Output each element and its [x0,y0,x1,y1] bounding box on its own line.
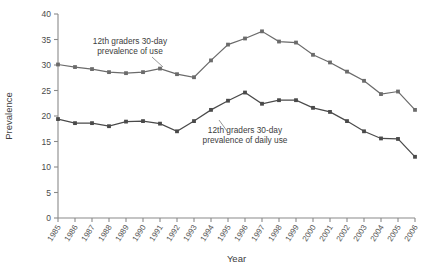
prevalence-line-chart: 0510152025303540198519861987198819891990… [0,0,423,266]
x-tick-label: 2001 [318,223,335,243]
data-point [73,65,77,69]
x-tick-label: 1989 [114,223,131,243]
x-tick-label: 1996 [233,223,250,243]
data-point [277,40,281,44]
annotation-label-line2: prevalence of use [97,46,163,56]
y-tick-label: 25 [42,86,52,96]
data-point [209,108,213,112]
x-tick-label: 2006 [403,223,420,243]
data-point [311,106,315,110]
data-point [243,37,247,41]
data-point [141,70,145,74]
data-point [413,108,417,112]
data-point [362,79,366,83]
data-point [328,110,332,114]
x-tick-label: 1994 [199,223,216,243]
x-tick-label: 1995 [216,223,233,243]
data-point [328,61,332,65]
data-point [362,129,366,133]
data-point [175,129,179,133]
data-point [294,98,298,102]
data-point [345,70,349,74]
data-point [226,43,230,47]
x-tick-label: 2003 [352,223,369,243]
data-point [90,67,94,71]
data-point [209,59,213,63]
annotation-label-line2: prevalence of daily use [203,135,288,145]
data-point [124,120,128,124]
y-tick-label: 30 [42,60,52,70]
x-tick-label: 1998 [267,223,284,243]
data-point [175,72,179,76]
x-tick-label: 1986 [63,223,80,243]
data-point [192,75,196,79]
x-tick-label: 1990 [131,223,148,243]
data-point [56,117,60,121]
data-point [141,119,145,123]
data-point [73,121,77,125]
data-point [226,99,230,103]
data-point [260,29,264,33]
y-tick-label: 10 [42,162,52,172]
data-point [56,63,60,67]
x-tick-label: 1985 [46,223,63,243]
x-tick-label: 2005 [386,223,403,243]
x-tick-label: 2004 [369,223,386,243]
data-point [277,98,281,102]
data-point [243,91,247,95]
data-point [158,122,162,126]
y-tick-label: 35 [42,35,52,45]
y-tick-label: 0 [46,213,51,223]
x-tick-label: 2002 [335,223,352,243]
x-tick-label: 1999 [284,223,301,243]
x-tick-label: 1991 [148,223,165,243]
x-tick-label: 1988 [97,223,114,243]
data-point [158,67,162,71]
data-point [379,137,383,141]
x-tick-label: 1987 [80,223,97,243]
annotation-label-line1: 12th graders 30-day [93,36,168,46]
y-tick-label: 5 [46,188,51,198]
y-tick-label: 20 [42,111,52,121]
data-point [107,70,111,74]
data-point [294,41,298,45]
data-point [124,71,128,75]
data-point [345,119,349,123]
data-point [379,92,383,96]
annotation-label-line1: 12th graders 30-day [208,125,283,135]
data-point [107,124,111,128]
data-point [90,121,94,125]
y-tick-label: 15 [42,137,52,147]
x-axis-title: Year [227,253,246,264]
annotation-leader-line [152,57,163,67]
x-tick-label: 1997 [250,223,267,243]
data-point [260,102,264,106]
y-tick-label: 40 [42,9,52,19]
data-point [192,119,196,123]
chart-canvas: 0510152025303540198519861987198819891990… [0,0,423,266]
data-point [396,137,400,141]
x-tick-label: 1993 [182,223,199,243]
data-point [311,53,315,57]
y-axis-title: Prevalence [3,92,14,140]
data-point [413,155,417,159]
x-tick-label: 2000 [301,223,318,243]
data-point [396,90,400,94]
x-tick-label: 1992 [165,223,182,243]
